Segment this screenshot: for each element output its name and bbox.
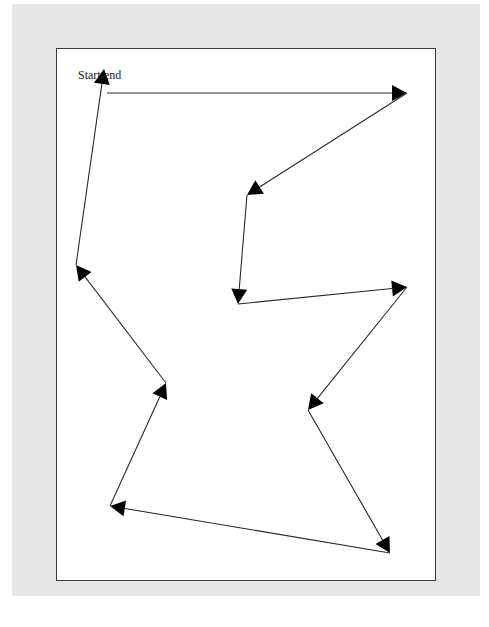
arrowhead-icon <box>308 393 324 410</box>
route-diagram <box>0 0 489 627</box>
route-edge <box>238 289 392 304</box>
arrowhead-icon <box>110 501 126 517</box>
route-edge <box>239 195 247 289</box>
route-edges <box>76 69 407 553</box>
route-edge <box>260 93 407 187</box>
arrowhead-icon <box>392 85 407 101</box>
route-edge <box>308 410 383 540</box>
route-edge <box>125 508 390 553</box>
route-edge <box>85 277 166 383</box>
arrowhead-icon <box>231 288 247 304</box>
arrowhead-icon <box>247 180 264 195</box>
route-edge <box>76 84 102 265</box>
route-edge <box>317 287 407 398</box>
arrowhead-icon <box>76 265 91 282</box>
arrowhead-icon <box>391 281 407 297</box>
route-edge <box>110 397 160 506</box>
start-end-label: Start/end <box>78 68 121 83</box>
